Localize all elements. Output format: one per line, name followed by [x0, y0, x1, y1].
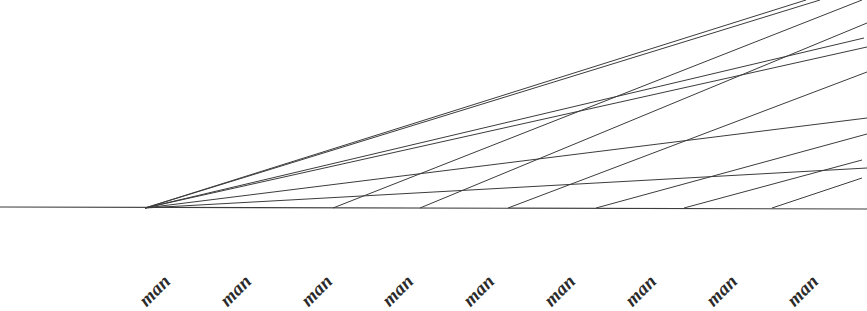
- mesh-line: [508, 72, 867, 208]
- mesh-line: [145, 38, 864, 208]
- mesh-line: [145, 118, 867, 208]
- axis-baseline: [0, 207, 867, 209]
- mesh-line: [596, 134, 867, 208]
- mesh-line: [684, 160, 862, 208]
- mesh-line: [772, 178, 862, 208]
- mesh-line: [145, 0, 820, 208]
- mesh-line-group: [0, 0, 867, 209]
- mesh-line: [145, 47, 867, 208]
